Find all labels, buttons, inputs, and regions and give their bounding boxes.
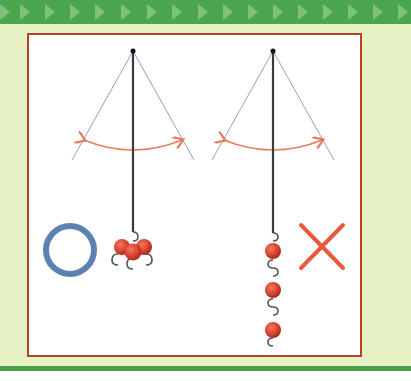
weight-ball [265, 243, 281, 259]
weight-ball [265, 322, 281, 338]
diagram-frame [28, 34, 361, 356]
pendulum-diagram [0, 0, 411, 381]
weight-ball [265, 282, 281, 298]
weight-ball [125, 244, 142, 261]
pivot-point [131, 49, 136, 54]
banner-arrows [0, 4, 408, 20]
pivot-point [271, 49, 276, 54]
